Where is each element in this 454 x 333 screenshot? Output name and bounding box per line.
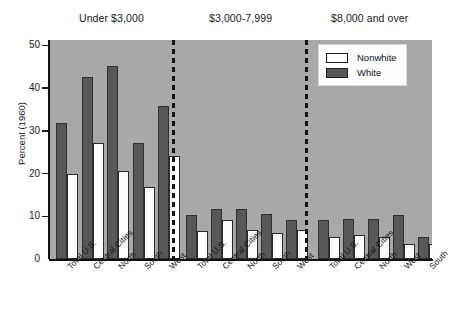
group-divider-0 <box>172 40 175 259</box>
y-tick-label-10: 10 <box>18 211 40 221</box>
y-tick-label-0: 0 <box>18 254 40 264</box>
y-tick-label-40: 40 <box>18 83 40 93</box>
y-tick-label-30: 30 <box>18 126 40 136</box>
legend-swatch-white <box>326 68 348 78</box>
group-header-1: $3,000-7,999 <box>209 12 272 24</box>
y-tick-label-20: 20 <box>18 169 40 179</box>
bar-white <box>158 106 169 259</box>
bar-nonwhite <box>67 174 78 259</box>
legend-item-white: White <box>326 65 397 80</box>
y-tick-label-50: 50 <box>18 40 40 50</box>
bar-white <box>186 215 197 259</box>
group-header-2: $8,000 and over <box>331 12 408 24</box>
legend: Nonwhite White <box>318 44 407 86</box>
group-header-0: Under $3,000 <box>79 12 144 24</box>
bar-nonwhite <box>429 244 432 259</box>
bar-white <box>56 123 67 259</box>
legend-swatch-nonwhite <box>326 53 348 63</box>
legend-label-nonwhite: Nonwhite <box>357 52 397 63</box>
bar-white <box>82 77 93 259</box>
bar-white <box>107 66 118 259</box>
legend-item-nonwhite: Nonwhite <box>326 50 397 65</box>
group-divider-1 <box>305 40 308 259</box>
group-headers: Under $3,000 $3,000-7,999 $8,000 and ove… <box>0 12 454 32</box>
bar-white <box>318 220 329 259</box>
bar-nonwhite <box>144 187 155 259</box>
bar-chart: Under $3,000 $3,000-7,999 $8,000 and ove… <box>0 0 454 333</box>
y-axis-line <box>48 40 50 259</box>
bar-white <box>133 143 144 259</box>
legend-label-white: White <box>357 67 381 78</box>
